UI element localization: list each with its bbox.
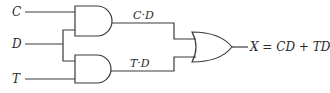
- input-label-t: T: [12, 73, 20, 85]
- and1-output-label: C·D: [133, 10, 154, 21]
- wire-cd: [112, 23, 196, 39]
- input-label-d: D: [12, 38, 22, 50]
- wire-td: [111, 57, 196, 71]
- wire-d-bus: [63, 30, 75, 61]
- input-label-c: C: [12, 6, 21, 18]
- and-gate-2: [75, 55, 111, 83]
- and2-output-label: T·D: [130, 58, 150, 69]
- output-expression: X = CD + TD: [250, 41, 330, 53]
- or-gate: [192, 32, 232, 62]
- and-gate-1: [75, 6, 112, 36]
